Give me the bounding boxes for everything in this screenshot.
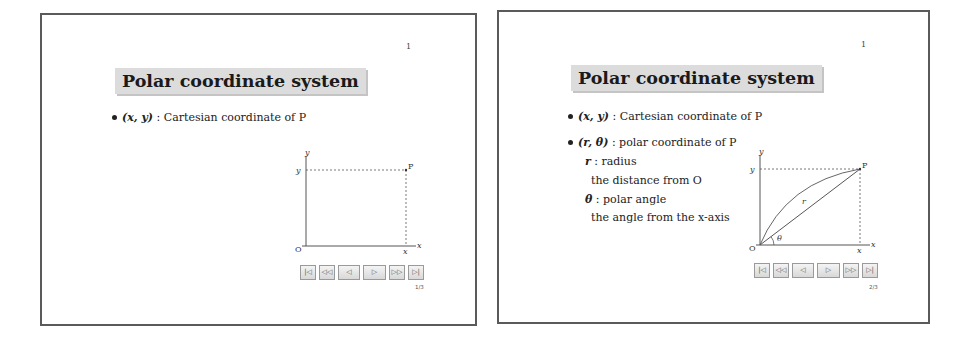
origin-label: O <box>749 244 756 253</box>
previous-button[interactable]: ◁ <box>792 263 814 278</box>
bullet-text: : Cartesian coordinate of P <box>609 110 762 123</box>
bullet-math: (x, y) <box>578 110 609 123</box>
sub-item-radius-desc: the distance from O <box>591 174 702 187</box>
point-label: P <box>862 161 868 170</box>
back-button[interactable]: ◁◁ <box>319 265 335 280</box>
last-page-button[interactable]: ▷| <box>862 263 878 278</box>
point-label: P <box>408 162 414 171</box>
bullet-text: : polar coordinate of P <box>608 136 736 149</box>
forward-button[interactable]: ▷▷ <box>389 265 405 280</box>
x-axis-label: x <box>871 240 876 249</box>
y-tick-label: y <box>295 166 301 175</box>
x-tick-label: x <box>857 246 862 255</box>
x-tick-label: x <box>403 247 408 256</box>
bullet-cartesian: (x, y) : Cartesian coordinate of P <box>568 110 762 123</box>
sub-item-angle-desc: the angle from the x-axis <box>591 211 730 224</box>
bullet-dot-icon <box>112 115 117 120</box>
slide-title: Polar coordinate system <box>571 65 822 91</box>
bullet-cartesian: (x, y) : Cartesian coordinate of P <box>112 111 306 124</box>
cartesian-diagram: y y P O x x <box>292 151 422 261</box>
bullet-text: : Cartesian coordinate of P <box>153 111 306 124</box>
y-axis-label: y <box>758 147 764 156</box>
polar-diagram: r θ y y P O x x <box>746 152 876 262</box>
back-button[interactable]: ◁◁ <box>773 263 789 278</box>
last-page-button[interactable]: ▷| <box>408 265 424 280</box>
page-counter: 1/3 <box>415 284 424 290</box>
radius-label: r <box>802 197 807 206</box>
navigation-bar: |◁ ◁◁ ◁ ▷ ▷▷ ▷| <box>754 263 878 278</box>
page-number: 1 <box>406 42 411 51</box>
first-page-button[interactable]: |◁ <box>300 265 316 280</box>
x-axis-label: x <box>417 241 422 250</box>
slide-1: 1 Polar coordinate system (x, y) : Carte… <box>40 13 477 326</box>
bullet-dot-icon <box>568 140 573 145</box>
bullet-dot-icon <box>568 114 573 119</box>
bullet-math: (x, y) <box>122 111 153 124</box>
navigation-bar: |◁ ◁◁ ◁ ▷ ▷▷ ▷| <box>300 265 424 280</box>
page-number: 1 <box>861 40 866 49</box>
previous-button[interactable]: ◁ <box>338 265 360 280</box>
y-tick-label: y <box>749 165 755 174</box>
sub-item-radius: r : radius <box>585 155 637 168</box>
next-button[interactable]: ▷ <box>363 265 386 280</box>
origin-label: O <box>295 245 302 254</box>
angle-label: θ <box>777 234 782 243</box>
page-counter: 2/3 <box>869 284 878 290</box>
y-axis-label: y <box>304 148 310 157</box>
sub-item-angle: θ : polar angle <box>585 193 666 206</box>
slide-title: Polar coordinate system <box>115 68 366 94</box>
next-button[interactable]: ▷ <box>817 263 840 278</box>
first-page-button[interactable]: |◁ <box>754 263 770 278</box>
bullet-math: (r, θ) <box>578 136 608 149</box>
bullet-polar: (r, θ) : polar coordinate of P <box>568 136 737 149</box>
forward-button[interactable]: ▷▷ <box>843 263 859 278</box>
slide-2: 1 Polar coordinate system (x, y) : Carte… <box>497 10 930 324</box>
